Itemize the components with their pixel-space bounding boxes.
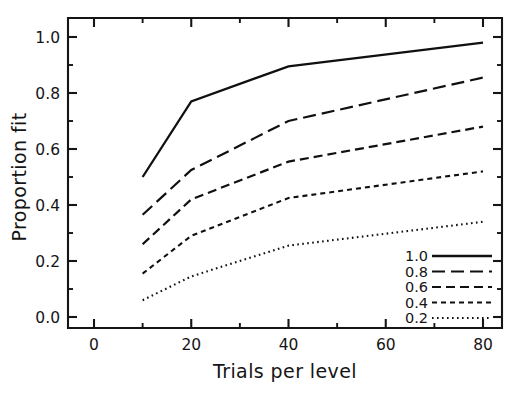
y-tick-label-0: 0.0 bbox=[35, 309, 60, 327]
x-tick-label-1: 20 bbox=[181, 336, 201, 354]
chart-legend: 1.00.80.60.40.2 bbox=[405, 248, 492, 326]
y-tick-label-4: 0.8 bbox=[35, 85, 60, 103]
series-line-0.4 bbox=[143, 171, 483, 273]
x-tick-label-4: 80 bbox=[473, 336, 493, 354]
series-line-1.0 bbox=[143, 43, 483, 177]
y-tick-label-1: 0.2 bbox=[35, 253, 60, 271]
x-tick-label-2: 40 bbox=[279, 336, 299, 354]
series-line-0.6 bbox=[143, 127, 483, 245]
x-axis-title: Trials per level bbox=[212, 360, 357, 382]
legend-label-0.6: 0.6 bbox=[405, 279, 428, 295]
chart-figure: 0204060800.00.20.40.60.81.0 1.00.80.60.4… bbox=[0, 0, 519, 393]
series-line-0.2 bbox=[143, 222, 483, 300]
series-layer bbox=[143, 43, 483, 301]
legend-label-1.0: 1.0 bbox=[405, 248, 428, 264]
plot-frame bbox=[68, 18, 502, 328]
legend-label-0.8: 0.8 bbox=[405, 264, 428, 280]
y-tick-label-2: 0.4 bbox=[35, 197, 60, 215]
x-tick-label-0: 0 bbox=[89, 336, 99, 354]
x-tick-label-3: 60 bbox=[376, 336, 396, 354]
legend-label-0.2: 0.2 bbox=[405, 310, 428, 326]
y-tick-label-5: 1.0 bbox=[35, 29, 60, 47]
axes-layer bbox=[68, 18, 502, 328]
y-tick-label-3: 0.6 bbox=[35, 141, 60, 159]
y-axis-title: Proportion fit bbox=[8, 112, 30, 241]
legend-label-0.4: 0.4 bbox=[405, 295, 428, 311]
line-chart: 0204060800.00.20.40.60.81.0 1.00.80.60.4… bbox=[0, 0, 519, 393]
